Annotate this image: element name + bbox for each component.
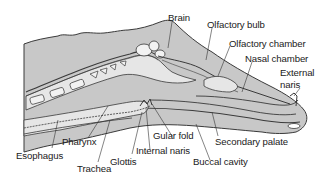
label-glottis: Glottis (110, 157, 137, 167)
label-secondary-palate: Secondary palate (215, 137, 288, 147)
label-buccal-cavity: Buccal cavity (193, 157, 248, 167)
label-external-naris-line2: naris (280, 80, 300, 90)
label-pharynx: Pharynx (62, 137, 97, 147)
label-olfactory-bulb: Olfactory bulb (207, 20, 265, 30)
lower-jaw-opening (288, 124, 300, 129)
label-olfactory-chamber: Olfactory chamber (229, 39, 306, 49)
label-external-naris-line1: External (280, 68, 314, 78)
label-esophagus: Esophagus (16, 151, 63, 161)
label-internal-naris: Internal naris (136, 146, 190, 156)
label-brain: Brain (168, 13, 190, 23)
label-gular-fold: Gular fold (153, 131, 194, 141)
label-nasal-chamber: Nasal chamber (245, 54, 308, 64)
label-trachea: Trachea (77, 164, 111, 174)
